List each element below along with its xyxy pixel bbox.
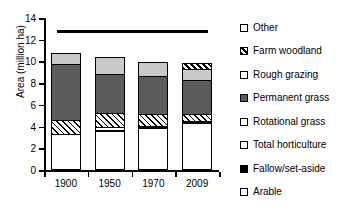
x-tick-0 bbox=[44, 172, 46, 177]
bar-segment-1970-arable[interactable] bbox=[138, 128, 168, 170]
legend-swatch-icon bbox=[240, 71, 248, 79]
bar-1900[interactable] bbox=[51, 53, 81, 170]
y-tick-label-2: 2 bbox=[30, 143, 36, 154]
y-tick-label-4: 4 bbox=[30, 121, 36, 132]
legend-label: Total horticulture bbox=[253, 140, 326, 150]
bar-segment-2009-horti[interactable] bbox=[182, 121, 212, 122]
bar-segment-2009-permanent[interactable] bbox=[182, 80, 212, 114]
y-tick-label-12: 12 bbox=[25, 34, 36, 45]
legend-item-total-horticulture[interactable]: Total horticulture bbox=[240, 134, 356, 158]
legend-swatch-icon bbox=[240, 141, 248, 149]
x-tick-label-2009: 2009 bbox=[186, 178, 208, 189]
chart-legend: OtherFarm woodlandRough grazingPermanent… bbox=[240, 16, 356, 204]
bar-segment-1900-rough[interactable] bbox=[51, 53, 81, 63]
legend-swatch-icon bbox=[240, 24, 248, 32]
y-tick-10 bbox=[39, 61, 44, 63]
bar-segment-2009-fallow[interactable] bbox=[182, 122, 212, 123]
bar-segment-2009-woodland[interactable] bbox=[182, 63, 212, 69]
y-tick-12 bbox=[39, 40, 44, 42]
bar-1970[interactable] bbox=[138, 62, 168, 170]
x-tick-2 bbox=[132, 172, 134, 177]
bar-segment-1900-arable[interactable] bbox=[51, 134, 81, 170]
bar-segment-1970-rough[interactable] bbox=[138, 62, 168, 76]
legend-item-rotational-grass[interactable]: Rotational grass bbox=[240, 110, 356, 134]
y-axis-line bbox=[44, 18, 46, 172]
legend-label: Arable bbox=[253, 187, 282, 197]
legend-label: Other bbox=[253, 23, 278, 33]
y-tick-8 bbox=[39, 83, 44, 85]
y-tick-label-10: 10 bbox=[25, 56, 36, 67]
legend-swatch-icon bbox=[240, 165, 248, 173]
x-tick-4 bbox=[219, 172, 221, 177]
bar-segment-1970-rotational[interactable] bbox=[138, 114, 168, 126]
legend-label: Fallow/set-aside bbox=[253, 164, 325, 174]
bar-segment-2009-rotational[interactable] bbox=[182, 114, 212, 121]
legend-item-permanent-grass[interactable]: Permanent grass bbox=[240, 87, 356, 111]
legend-item-arable[interactable]: Arable bbox=[240, 181, 356, 205]
x-tick-label-1900: 1900 bbox=[55, 178, 77, 189]
legend-item-farm-woodland[interactable]: Farm woodland bbox=[240, 40, 356, 64]
plot-area: 02468101214 1900195019702009 bbox=[44, 18, 219, 172]
y-tick-2 bbox=[39, 148, 44, 150]
bar-2009[interactable] bbox=[182, 63, 212, 170]
y-tick-4 bbox=[39, 127, 44, 129]
bar-segment-1950-fallow[interactable] bbox=[95, 130, 125, 131]
y-tick-label-14: 14 bbox=[25, 13, 36, 24]
bar-segment-1950-arable[interactable] bbox=[95, 131, 125, 170]
bar-segment-1950-horti[interactable] bbox=[95, 127, 125, 130]
bar-segment-1970-horti[interactable] bbox=[138, 126, 168, 127]
legend-label: Farm woodland bbox=[253, 46, 322, 56]
bar-segment-1950-rotational[interactable] bbox=[95, 113, 125, 127]
legend-swatch-icon bbox=[240, 47, 248, 55]
y-tick-6 bbox=[39, 105, 44, 107]
y-tick-label-8: 8 bbox=[30, 78, 36, 89]
y-tick-label-0: 0 bbox=[30, 165, 36, 176]
legend-swatch-icon bbox=[240, 118, 248, 126]
bar-segment-2009-rough[interactable] bbox=[182, 69, 212, 80]
bar-segment-2009-arable[interactable] bbox=[182, 123, 212, 170]
y-axis-title: Area (million ha) bbox=[15, 2, 26, 122]
y-tick-14 bbox=[39, 18, 44, 20]
bar-segment-1970-permanent[interactable] bbox=[138, 76, 168, 113]
x-tick-label-1970: 1970 bbox=[142, 178, 164, 189]
legend-swatch-icon bbox=[240, 188, 248, 196]
legend-item-other[interactable]: Other bbox=[240, 16, 356, 40]
bar-1950[interactable] bbox=[95, 57, 125, 170]
legend-item-rough-grazing[interactable]: Rough grazing bbox=[240, 63, 356, 87]
bar-segment-1900-permanent[interactable] bbox=[51, 64, 81, 120]
bar-segment-1950-rough[interactable] bbox=[95, 57, 125, 74]
x-tick-1 bbox=[88, 172, 90, 177]
overline-annotation-0 bbox=[57, 30, 208, 33]
stacked-bar-chart: Area (million ha) 02468101214 1900195019… bbox=[0, 0, 356, 208]
legend-swatch-icon bbox=[240, 94, 248, 102]
x-tick-label-1950: 1950 bbox=[99, 178, 121, 189]
legend-label: Rough grazing bbox=[253, 70, 318, 80]
legend-label: Permanent grass bbox=[253, 93, 329, 103]
y-tick-label-6: 6 bbox=[30, 99, 36, 110]
bar-segment-1950-permanent[interactable] bbox=[95, 74, 125, 113]
bar-segment-1900-rotational[interactable] bbox=[51, 120, 81, 134]
x-tick-3 bbox=[175, 172, 177, 177]
legend-item-fallow-set-aside[interactable]: Fallow/set-aside bbox=[240, 157, 356, 181]
legend-label: Rotational grass bbox=[253, 117, 325, 127]
bar-segment-1970-fallow[interactable] bbox=[138, 127, 168, 128]
